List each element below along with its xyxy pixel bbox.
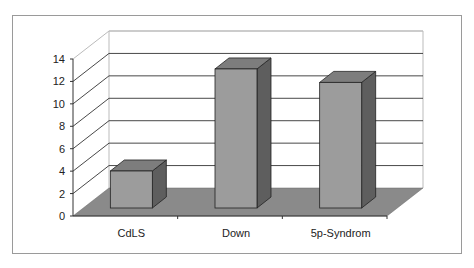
bar-down bbox=[215, 69, 257, 208]
bar-chart-3d: 02468101214CdLSDown5p-Syndrom bbox=[0, 0, 474, 268]
y-tick-label: 12 bbox=[53, 75, 65, 87]
bar-cdls bbox=[110, 171, 152, 208]
x-category-label: Down bbox=[222, 227, 250, 239]
y-tick-label: 0 bbox=[59, 210, 65, 222]
side-wall-edge bbox=[73, 31, 109, 59]
bar-side-5p-syndrom bbox=[362, 71, 376, 208]
x-category-label: CdLS bbox=[118, 227, 146, 239]
y-tick-label: 6 bbox=[59, 143, 65, 155]
y-tick-label: 2 bbox=[59, 188, 65, 200]
x-category-label: 5p-Syndrom bbox=[311, 227, 371, 239]
bar-side-down bbox=[257, 58, 271, 208]
y-tick-label: 14 bbox=[53, 53, 65, 65]
y-tick-label: 8 bbox=[59, 120, 65, 132]
bar-5p-syndrom bbox=[320, 82, 362, 208]
y-tick-label: 4 bbox=[59, 165, 65, 177]
y-tick-label: 10 bbox=[53, 98, 65, 110]
